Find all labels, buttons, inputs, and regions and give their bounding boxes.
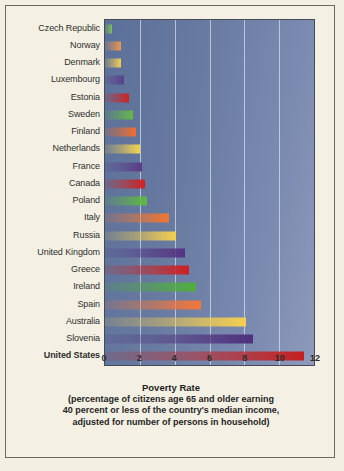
bar <box>105 145 140 154</box>
category-label: Denmark <box>6 54 100 71</box>
category-label: Luxembourg <box>6 71 100 88</box>
category-label: Australia <box>6 312 100 329</box>
bar-row <box>105 210 314 227</box>
bar-row <box>105 141 314 158</box>
bar-row <box>105 89 314 106</box>
caption-line-3: adjusted for number of persons in househ… <box>12 417 330 429</box>
x-tick-0: 0 <box>101 353 106 363</box>
bar-row <box>105 158 314 175</box>
caption-line-1: (percentage of citizens age 65 and older… <box>12 394 330 406</box>
bar-rows <box>105 20 314 365</box>
category-label: Greece <box>6 261 100 278</box>
chart-caption: Poverty Rate (percentage of citizens age… <box>12 382 330 428</box>
bar <box>105 162 142 171</box>
category-label: Italy <box>6 209 100 226</box>
bar <box>105 300 201 309</box>
category-label: Canada <box>6 174 100 191</box>
x-tick-6: 6 <box>207 353 212 363</box>
bar <box>105 128 136 137</box>
bar <box>105 93 129 102</box>
caption-title: Poverty Rate <box>12 382 330 394</box>
bar-row <box>105 313 314 330</box>
bar <box>105 41 121 50</box>
bar <box>105 179 145 188</box>
bar <box>105 317 246 326</box>
bar-row <box>105 124 314 141</box>
category-label: Sweden <box>6 105 100 122</box>
bar <box>105 283 196 292</box>
x-tick-8: 8 <box>242 353 247 363</box>
bar <box>105 197 147 206</box>
bar-row <box>105 262 314 279</box>
bar <box>105 110 133 119</box>
category-label-column: Czech RepublicNorwayDenmarkLuxembourgEst… <box>6 19 100 364</box>
x-axis-ticks: 024681012 <box>104 353 315 367</box>
category-label: Spain <box>6 295 100 312</box>
figure-panel: Czech RepublicNorwayDenmarkLuxembourgEst… <box>5 5 335 458</box>
bar <box>105 214 169 223</box>
category-label: United Kingdom <box>6 243 100 260</box>
category-label: Norway <box>6 36 100 53</box>
plot-area <box>104 19 315 366</box>
x-tick-2: 2 <box>137 353 142 363</box>
category-label: Russia <box>6 226 100 243</box>
bar-row <box>105 279 314 296</box>
bar <box>105 59 121 68</box>
page-bottom-sliver <box>0 464 344 471</box>
category-label: Czech Republic <box>6 19 100 36</box>
bar <box>105 24 112 33</box>
category-label: Poland <box>6 192 100 209</box>
category-label: Netherlands <box>6 140 100 157</box>
chart-area: Czech RepublicNorwayDenmarkLuxembourgEst… <box>6 19 336 377</box>
bar-row <box>105 227 314 244</box>
caption-line-2: 40 percent or less of the country's medi… <box>12 405 330 417</box>
bar-row <box>105 331 314 348</box>
bar-row <box>105 244 314 261</box>
x-tick-10: 10 <box>275 353 285 363</box>
category-label: Finland <box>6 123 100 140</box>
x-tick-4: 4 <box>172 353 177 363</box>
category-label: France <box>6 157 100 174</box>
bar-row <box>105 20 314 37</box>
category-label: United States <box>6 347 100 364</box>
category-label: Ireland <box>6 278 100 295</box>
bar-row <box>105 106 314 123</box>
bar <box>105 231 176 240</box>
bar <box>105 76 124 85</box>
bar <box>105 266 189 275</box>
bar-row <box>105 296 314 313</box>
bar-row <box>105 175 314 192</box>
bar-row <box>105 72 314 89</box>
x-tick-12: 12 <box>310 353 320 363</box>
bar <box>105 248 185 257</box>
bar-row <box>105 37 314 54</box>
category-label: Estonia <box>6 88 100 105</box>
bar <box>105 335 253 344</box>
bar-row <box>105 55 314 72</box>
bar-row <box>105 193 314 210</box>
category-label: Slovenia <box>6 330 100 347</box>
